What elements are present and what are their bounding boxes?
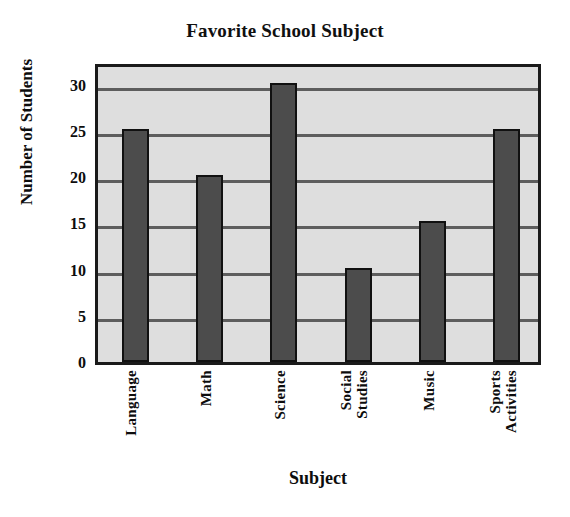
x-tick-label: Sports [488, 370, 504, 413]
y-axis-title: Number of Students [17, 2, 37, 262]
y-tick-label: 10 [42, 263, 86, 279]
y-axis-tick-labels: 051015202530 [38, 0, 86, 517]
y-tick-label: 20 [42, 170, 86, 186]
y-tick-label: 30 [42, 78, 86, 94]
x-axis-title: Subject [95, 468, 541, 489]
x-tick-label-group: SocialStudies [318, 370, 392, 470]
bar [419, 221, 446, 362]
y-tick-label: 25 [42, 124, 86, 140]
x-axis-tick-labels: LanguageMathScienceSocialStudiesMusicSpo… [95, 370, 541, 470]
y-tick-label: 0 [42, 355, 86, 371]
bar [493, 129, 520, 362]
bars-layer [98, 67, 538, 362]
y-tick-label: 5 [42, 309, 86, 325]
x-tick-label: Science [273, 370, 289, 420]
x-tick-label: Activities [504, 370, 520, 433]
x-tick-label-group: Music [392, 370, 466, 470]
y-tick-label: 15 [42, 216, 86, 232]
bar-chart-figure: Favorite School Subject Number of Studen… [0, 0, 570, 517]
x-tick-label-group: Science [244, 370, 318, 470]
plot-area [95, 64, 541, 365]
x-tick-label: Language [124, 370, 140, 436]
bar [196, 175, 223, 362]
bar [122, 129, 149, 362]
x-tick-label-group: Math [169, 370, 243, 470]
bar [270, 83, 297, 363]
x-tick-label: Music [422, 370, 438, 411]
x-tick-label: Math [199, 370, 215, 406]
x-tick-label-group: SportsActivities [467, 370, 541, 470]
bar [345, 268, 372, 363]
x-tick-label: Studies [355, 370, 371, 419]
x-tick-label-group: Language [95, 370, 169, 470]
x-tick-label: Social [339, 370, 355, 410]
